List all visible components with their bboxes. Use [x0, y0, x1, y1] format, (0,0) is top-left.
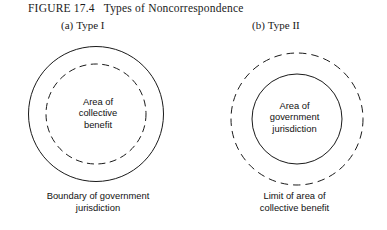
diagram-type-i: [8, 38, 188, 190]
bottom-caption-line-1: Boundary of government: [8, 190, 188, 202]
panel-type-ii: Area of government jurisdiction Limit of…: [200, 38, 380, 223]
inner-circle-solid-b: [252, 74, 342, 164]
panel-caption-b: (b)Type II: [252, 19, 300, 31]
panel-tag-a: (a): [61, 19, 73, 31]
figure-number: FIGURE 17.4: [28, 2, 95, 14]
diagram-type-ii: [200, 38, 380, 190]
figure-title-text: Types of Noncorrespondence: [104, 2, 244, 14]
figure-title: FIGURE 17.4Types of Noncorrespondence: [28, 2, 244, 14]
panel-label-a: Type I: [76, 19, 104, 31]
bottom-caption-type-ii: Limit of area of collective benefit: [209, 190, 380, 213]
panel-tag-b: (b): [252, 19, 265, 31]
bottom-caption-type-i: Boundary of government jurisdiction: [8, 190, 188, 213]
bottom-caption-line-1: Limit of area of: [209, 190, 380, 202]
outer-circle-solid-a: [29, 47, 164, 182]
bottom-caption-line-2: jurisdiction: [8, 202, 188, 214]
panel-caption-a: (a)Type I: [61, 19, 104, 31]
panel-type-i: Area of collective benefit Boundary of g…: [8, 38, 188, 223]
outer-circle-dashed-b: [231, 53, 363, 185]
inner-circle-dashed-a: [46, 64, 146, 164]
bottom-caption-line-2: collective benefit: [209, 202, 380, 214]
figure-container: FIGURE 17.4Types of Noncorrespondence (a…: [0, 0, 387, 230]
panel-label-b: Type II: [268, 19, 300, 31]
